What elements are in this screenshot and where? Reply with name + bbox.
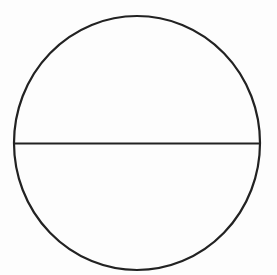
circle-diagram (0, 0, 277, 275)
diagram-canvas (0, 0, 277, 275)
